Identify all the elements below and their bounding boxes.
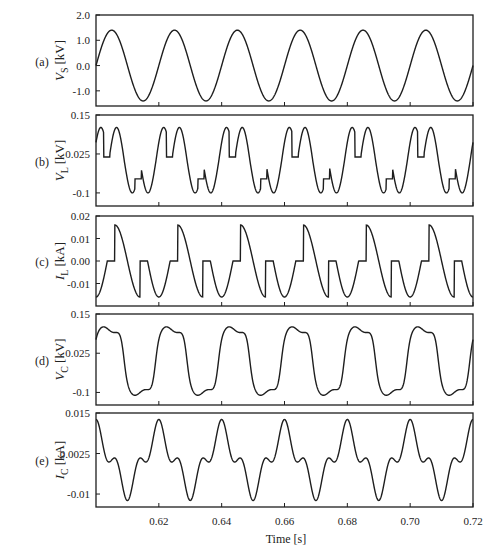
panel-letter: (d)	[35, 354, 49, 368]
x-tick-label: 0.62	[149, 515, 168, 527]
x-axis-labels: 0.620.640.660.680.700.72	[149, 515, 482, 527]
panel-c: 0.020.010.00-0.01(c)IL[kA]	[35, 210, 473, 306]
y-tick-label: -0.01	[67, 488, 90, 500]
y-tick-label: 0.015	[65, 407, 90, 419]
x-axis-title: Time [s]	[266, 532, 307, 546]
y-tick-label: -0.1	[73, 386, 90, 398]
panel-letter: (c)	[35, 255, 48, 269]
panel-a: 2.01.00.0-1.0(a)VS[kV]	[35, 9, 473, 106]
waveform-line	[96, 327, 473, 395]
y-tick-label: 0.025	[65, 148, 90, 160]
plot-frame	[96, 413, 473, 507]
y-axis-title: VL[kV]	[52, 140, 70, 182]
y-tick-label: 0.15	[71, 308, 91, 320]
y-tick-label: 0.00	[71, 255, 91, 267]
y-tick-label: -1.0	[73, 85, 91, 97]
figure: 2.01.00.0-1.0(a)VS[kV]0.150.025-0.1(b)VL…	[0, 0, 494, 552]
x-tick-label: 0.72	[463, 515, 482, 527]
waveform-line	[96, 225, 473, 297]
panel-d: 0.150.025-0.1(d)VC[kV]	[35, 308, 473, 405]
waveform-line	[96, 419, 473, 500]
plot-frame	[96, 15, 473, 106]
y-tick-label: 0.01	[71, 233, 90, 245]
x-tick-label: 0.70	[401, 515, 421, 527]
y-axis-title: VS[kV]	[52, 40, 70, 81]
plot-frame	[96, 216, 473, 306]
panel-e: 0.0150.0025-0.01(e)IC[kA]	[35, 407, 473, 507]
y-tick-label: 1.0	[76, 34, 90, 46]
y-tick-label: 0.15	[71, 109, 91, 121]
x-tick-label: 0.68	[338, 515, 358, 527]
y-tick-label: -0.1	[73, 187, 90, 199]
x-tick-label: 0.66	[275, 515, 295, 527]
y-axis-title: IL[kA]	[52, 242, 70, 281]
panel-letter: (e)	[35, 454, 48, 468]
panel-letter: (b)	[35, 155, 49, 169]
x-tick-label: 0.64	[212, 515, 232, 527]
y-tick-label: -0.01	[67, 278, 90, 290]
panel-b: 0.150.025-0.1(b)VL[kV]	[35, 109, 473, 206]
y-tick-label: 0.02	[71, 210, 90, 222]
y-tick-label: 0.025	[65, 347, 90, 359]
y-tick-label: 0.0	[76, 60, 90, 72]
y-axis-title: VC[kV]	[52, 338, 70, 380]
panel-letter: (a)	[35, 55, 48, 69]
y-tick-label: 2.0	[76, 9, 90, 21]
waveform-line	[96, 127, 473, 192]
waveform-line	[96, 30, 473, 101]
